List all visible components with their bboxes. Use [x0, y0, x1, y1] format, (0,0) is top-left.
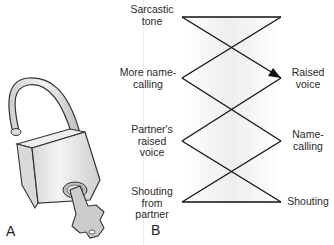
label-name-calling: Name- calling: [286, 129, 330, 152]
label-raised-voice: Raised voice: [286, 67, 330, 90]
label-sarcastic-tone: Sarcastic tone: [124, 4, 180, 27]
label-shouting-from-partner: Shouting from partner: [124, 186, 180, 221]
label-more-name-calling: More name- calling: [115, 67, 181, 90]
label-partners-raised-voice: Partner's raised voice: [124, 124, 180, 159]
label-shouting: Shouting: [283, 196, 333, 208]
